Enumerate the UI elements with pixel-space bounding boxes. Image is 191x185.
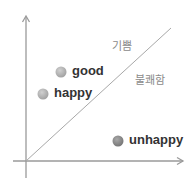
point-happy-marker xyxy=(38,89,49,100)
point-unhappy-label: unhappy xyxy=(129,132,183,147)
region-label-joy: 기쁨 xyxy=(112,37,132,53)
point-happy-label: happy xyxy=(54,85,92,100)
y-axis xyxy=(23,16,30,178)
point-unhappy-marker xyxy=(113,136,124,147)
point-good-marker xyxy=(56,67,67,78)
point-good-label: good xyxy=(72,63,104,78)
x-axis xyxy=(13,158,183,165)
region-label-displeasure: 불쾌함 xyxy=(135,71,165,87)
diagram-canvas xyxy=(0,0,191,185)
